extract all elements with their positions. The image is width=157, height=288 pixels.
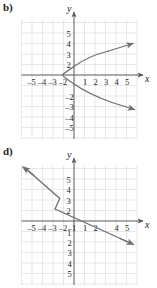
panel-d-x-axis-label: x xyxy=(144,219,150,230)
svg-text:1: 1 xyxy=(83,77,87,87)
svg-text:–2: –2 xyxy=(64,92,74,102)
svg-text:5: 5 xyxy=(67,269,71,279)
svg-text:–5: –5 xyxy=(26,77,36,87)
svg-text:–4: –4 xyxy=(64,113,74,123)
svg-text:3: 3 xyxy=(67,248,71,258)
svg-text:1: 1 xyxy=(83,223,87,233)
panel-d-plot: y x –5 –4 –3 –2 –1 1 2 4 5 5 4 3 2 1 2 3… xyxy=(0,144,157,288)
svg-text:–5: –5 xyxy=(26,223,36,233)
svg-text:3: 3 xyxy=(66,50,70,60)
svg-text:1: 1 xyxy=(67,228,71,238)
svg-text:5: 5 xyxy=(125,223,129,233)
panel-b-arrow-lower xyxy=(112,103,135,110)
panel-b-axes xyxy=(22,12,144,139)
svg-text:2: 2 xyxy=(67,238,71,248)
svg-text:4: 4 xyxy=(66,39,71,49)
panel-b-arrow-upper xyxy=(109,44,134,52)
svg-text:–2: –2 xyxy=(58,223,68,233)
svg-text:5: 5 xyxy=(125,77,129,87)
panel-b-x-axis-label: x xyxy=(144,73,150,84)
svg-text:–4: –4 xyxy=(37,77,47,87)
svg-text:–3: –3 xyxy=(47,223,57,233)
svg-text:3: 3 xyxy=(66,196,70,206)
svg-text:–5: –5 xyxy=(64,123,74,133)
svg-text:–4: –4 xyxy=(37,223,47,233)
svg-text:4: 4 xyxy=(66,185,71,195)
svg-text:4: 4 xyxy=(67,259,72,269)
svg-text:–3: –3 xyxy=(64,102,74,112)
svg-text:3: 3 xyxy=(104,77,108,87)
svg-text:5: 5 xyxy=(66,29,70,39)
panel-b: b) xyxy=(0,0,157,144)
panel-d: d) xyxy=(0,144,157,288)
panel-b-plot: y x –5 –4 –3 –2 1 2 3 4 5 5 4 3 2 –2 –3 … xyxy=(0,0,157,144)
svg-text:5: 5 xyxy=(66,175,70,185)
panel-d-y-axis-label: y xyxy=(66,149,72,160)
svg-text:–3: –3 xyxy=(47,77,57,87)
panel-b-y-axis-label: y xyxy=(66,3,72,14)
svg-text:2: 2 xyxy=(93,77,97,87)
